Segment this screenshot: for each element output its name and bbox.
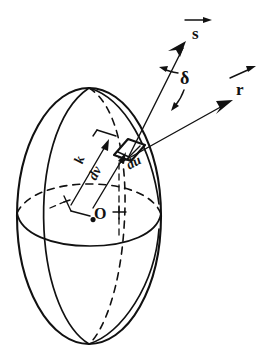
vector-s-overbar-icon bbox=[185, 17, 212, 23]
label-origin: O bbox=[94, 206, 106, 222]
origin-tick-left bbox=[64, 196, 71, 211]
vector-r-overbar-head bbox=[246, 66, 256, 72]
delta-lower-arc bbox=[175, 90, 184, 106]
vector-s-head bbox=[168, 41, 186, 57]
ellipsoid-diagram: s r δ O k dv du bbox=[0, 0, 267, 359]
vector-s-overbar-head bbox=[203, 17, 212, 23]
meridian-front-arc bbox=[44, 88, 89, 344]
origin-tick-cross bbox=[64, 200, 70, 202]
diagram-canvas bbox=[0, 0, 267, 359]
vector-r-overbar-line bbox=[230, 69, 250, 78]
vector-r-overbar-icon bbox=[230, 66, 256, 78]
label-vector-s: s bbox=[192, 25, 199, 42]
delta-upper-arrowhead bbox=[159, 66, 168, 72]
origin-construction-marks bbox=[50, 196, 96, 222]
label-angle-delta: δ bbox=[180, 69, 189, 87]
equator-back-arc bbox=[17, 184, 161, 214]
origin-baseline bbox=[71, 211, 90, 216]
label-vector-r: r bbox=[236, 81, 244, 98]
patch-frame-top-tick bbox=[93, 130, 97, 136]
center-cross-mark bbox=[113, 206, 126, 219]
patch-frame-construction bbox=[93, 130, 116, 136]
origin-dashline bbox=[50, 202, 64, 208]
patch-frame-top-line bbox=[97, 130, 116, 136]
radius-k-head bbox=[101, 139, 109, 151]
vector-r-head bbox=[216, 100, 233, 114]
equator-front-arc bbox=[17, 213, 161, 246]
